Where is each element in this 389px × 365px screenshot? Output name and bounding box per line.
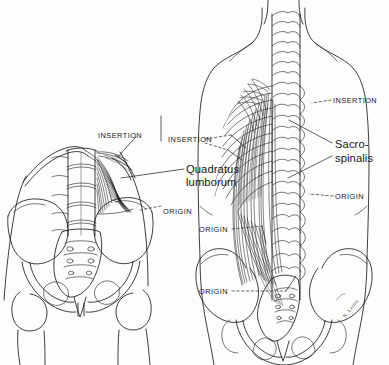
- label-pelvis-origin-upper: ORIGIN: [199, 226, 228, 234]
- left-lumbar-spine: [52, 148, 97, 236]
- left-pelvis: [8, 198, 153, 365]
- sacrospinalis-muscle: [233, 79, 283, 306]
- label-right-origin: ORIGIN: [335, 193, 364, 201]
- label-sacrospinalis-line2: spinalis: [335, 152, 373, 165]
- quadratus-lumborum-muscle: [97, 152, 133, 214]
- label-quadratus-lumborum-line1: Quadratus: [186, 163, 239, 176]
- label-right-insertion: INSERTION: [333, 97, 377, 105]
- right-pelvis: [196, 249, 372, 365]
- left-figure-group: [4, 116, 184, 365]
- label-mid-insertion: INSERTION: [168, 136, 212, 144]
- label-left-insertion: INSERTION: [98, 132, 142, 140]
- left-ribs: [23, 147, 135, 186]
- label-pelvis-origin-lower: ORIGIN: [199, 288, 228, 296]
- label-quadratus-lumborum-line2: lumborum: [186, 176, 237, 189]
- label-sacrospinalis-line1: Sacro-: [335, 138, 369, 151]
- anatomy-illustration-page: .s { fill:none; stroke:#1b1b20; stroke-w…: [0, 0, 389, 365]
- label-left-origin: ORIGIN: [163, 208, 192, 216]
- left-torso-outline: [4, 152, 148, 300]
